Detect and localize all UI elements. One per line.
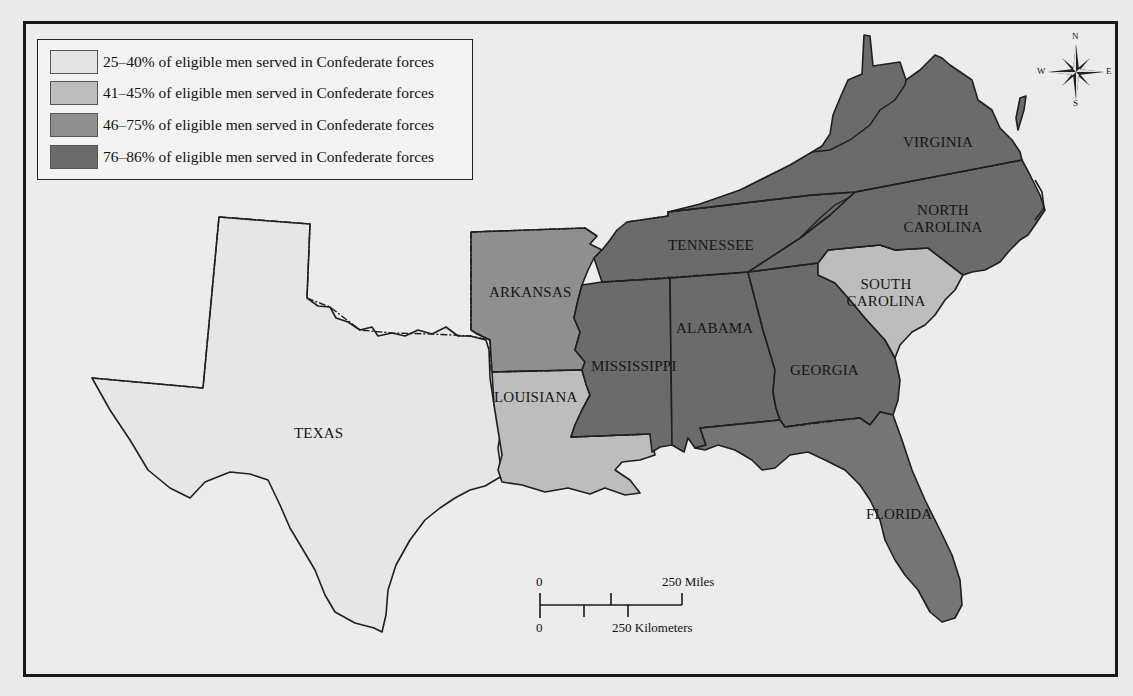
legend-swatch-41-45	[50, 81, 98, 105]
label-virginia: VIRGINIA	[903, 134, 973, 151]
compass-e: E	[1106, 66, 1112, 76]
compass-n: N	[1072, 31, 1079, 41]
legend-swatch-76-86	[50, 145, 98, 169]
scale-miles-zero: 0	[536, 574, 543, 590]
label-north-carolina: NORTH CAROLINA	[893, 202, 993, 236]
delmarva-peninsula	[1016, 96, 1026, 130]
legend-swatch-46-75	[50, 113, 98, 137]
scale-bar: 0 250 Miles 0 250 Kilometers	[530, 565, 730, 645]
label-georgia: GEORGIA	[790, 362, 859, 379]
compass-w: W	[1037, 66, 1046, 76]
legend-item: 25–40% of eligible men served in Confede…	[50, 49, 434, 75]
scale-km-label: 250 Kilometers	[612, 620, 693, 636]
label-arkansas: ARKANSAS	[489, 284, 571, 301]
compass-s: S	[1073, 98, 1078, 108]
legend-swatch-25-40	[50, 50, 98, 74]
label-south-carolina: SOUTH CAROLINA	[830, 276, 942, 310]
label-alabama: ALABAMA	[676, 320, 753, 337]
label-louisiana: LOUISIANA	[494, 389, 577, 406]
legend: 25–40% of eligible men served in Confede…	[37, 39, 473, 180]
label-texas: TEXAS	[294, 425, 343, 442]
label-tennessee: TENNESSEE	[668, 237, 754, 254]
compass-rose-icon: N S E W	[1040, 36, 1112, 108]
label-florida: FLORIDA	[866, 506, 932, 523]
scale-miles-label: 250 Miles	[662, 574, 714, 590]
legend-item: 41–45% of eligible men served in Confede…	[50, 80, 434, 106]
scale-km-zero: 0	[536, 620, 543, 636]
label-mississippi: MISSISSIPPI	[591, 358, 677, 375]
legend-item: 76–86% of eligible men served in Confede…	[50, 144, 434, 170]
legend-item: 46–75% of eligible men served in Confede…	[50, 112, 434, 138]
